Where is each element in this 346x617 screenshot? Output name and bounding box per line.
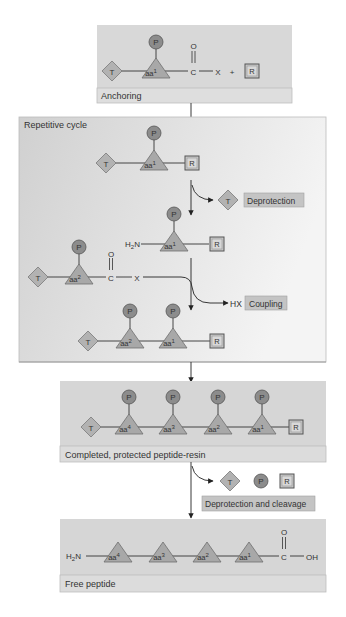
p-protecting-group-icon: P [123,304,137,318]
carbonyl-o: O [190,42,196,51]
svg-text:P: P [126,393,131,402]
svg-text:P: P [170,393,175,402]
free-peptide-label: Free peptide [65,579,116,589]
svg-text:T: T [110,68,115,77]
leaving-group-x: X [215,68,221,77]
svg-text:R: R [214,240,220,249]
p-protecting-group-icon: P [167,207,181,221]
svg-text:P: P [258,477,263,486]
p-protecting-group-icon: P [166,390,180,404]
free-peptide-panel: Free peptide H2N aa4 aa3 aa2 aa1 O C OH [60,519,326,592]
carbon-c: C [108,274,114,283]
svg-text:P: P [153,38,158,47]
deprotection-cleavage-tag: Deprotection and cleavage [202,496,315,511]
svg-text:P: P [76,243,81,252]
svg-text:T: T [226,197,231,206]
svg-text:P: P [215,393,220,402]
svg-text:R: R [189,159,195,168]
svg-text:P: P [151,129,156,138]
hydroxyl-oh: OH [306,553,318,562]
resin-icon: R [185,156,199,170]
svg-text:Coupling: Coupling [249,299,283,309]
deprotection-tag: Deprotection [244,193,304,207]
repetitive-cycle-label: Repetitive cycle [24,120,87,130]
p-protecting-group-icon: P [255,390,269,404]
p-protecting-group-icon: P [211,390,225,404]
carbon-c: C [281,553,287,562]
coupling-tag: Coupling [245,296,287,310]
hx-byproduct: HX [230,299,242,309]
svg-text:T: T [89,424,94,433]
repetitive-cycle-panel: Repetitive cycle T P aa1 R T [19,117,326,362]
leaving-group-x: X [134,274,140,283]
svg-text:R: R [284,477,290,486]
resin-icon: R [289,420,303,434]
carbonyl-o: O [108,250,114,259]
svg-text:R: R [214,337,220,346]
p-protecting-group-icon: P [254,474,268,488]
svg-text:R: R [293,423,299,432]
completed-peptide-resin-panel: Completed, protected peptide-resin T P a… [60,381,326,462]
svg-text:T: T [86,338,91,347]
p-protecting-group-icon: P [166,304,180,318]
p-protecting-group-icon: P [72,240,86,254]
p-protecting-group-icon: P [147,126,161,140]
svg-text:T: T [36,274,41,283]
svg-text:P: P [171,210,176,219]
spps-diagram: Anchoring T P aa1 O C X + R [0,0,346,617]
svg-text:P: P [259,393,264,402]
svg-text:Deprotection and cleavage: Deprotection and cleavage [205,499,306,509]
p-protecting-group-icon: P [122,390,136,404]
resin-icon: R [210,334,224,348]
carbon-c: C [191,68,197,77]
resin-icon: R [245,64,259,78]
svg-text:R: R [249,67,255,76]
svg-text:Deprotection: Deprotection [247,196,295,206]
completed-label: Completed, protected peptide-resin [65,450,206,460]
t-protecting-group-icon: T [220,471,240,491]
resin-icon: R [210,237,224,251]
svg-text:T: T [104,160,109,169]
svg-text:T: T [228,478,233,487]
cleavage-step: T P R Deprotection and cleavage [191,462,315,518]
svg-text:P: P [170,307,175,316]
resin-icon: R [280,474,294,488]
p-protecting-group-icon: P [149,35,163,49]
carbonyl-o: O [281,528,287,537]
plus-sign: + [230,68,235,77]
anchoring-label: Anchoring [101,91,142,101]
anchoring-panel: Anchoring T P aa1 O C X + R [97,25,292,103]
svg-text:P: P [127,307,132,316]
